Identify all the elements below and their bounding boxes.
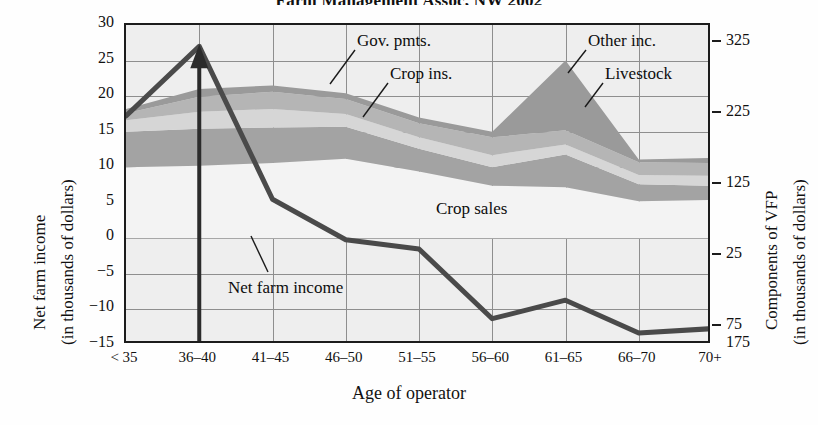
chart-figure: Farm Management Assoc, NW 2002 302520151… xyxy=(0,0,818,425)
leader-gov-pmts xyxy=(330,50,355,84)
leader-net-farm-income xyxy=(251,236,268,272)
annotation-leader-lines xyxy=(0,0,818,425)
leader-crop-ins xyxy=(363,83,388,117)
leader-livestock xyxy=(585,83,603,107)
leader-other-inc xyxy=(568,50,586,73)
